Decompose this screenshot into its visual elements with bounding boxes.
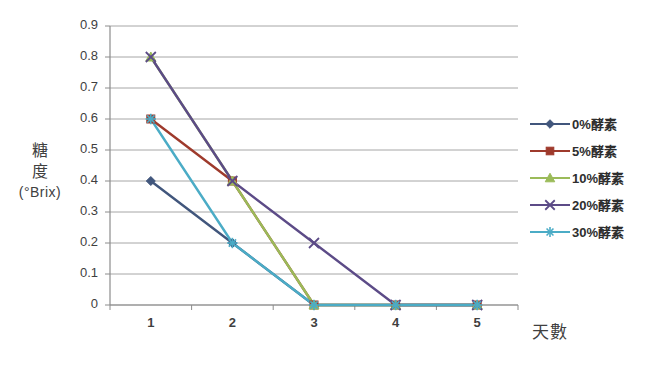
legend-marker-square-icon: [530, 144, 570, 158]
legend-item-label: 0%酵素: [570, 114, 617, 133]
legend-marker-glyph: [542, 143, 558, 159]
marker-diamond: [546, 119, 555, 128]
data-point-marker-asterisk: [390, 300, 400, 310]
legend-marker-glyph: [542, 170, 558, 186]
legend-marker-diamond-icon: [530, 117, 570, 131]
data-point-marker-square: [546, 147, 554, 155]
legend-item[interactable]: 10%酵素: [530, 164, 652, 191]
legend-marker-triangle-icon: [530, 171, 570, 185]
data-point-marker-asterisk: [472, 300, 482, 310]
data-point-marker-asterisk: [545, 227, 555, 237]
legend-item-label: 30%酵素: [570, 222, 624, 241]
legend-item-label: 5%酵素: [570, 141, 617, 160]
data-point-marker-asterisk: [146, 114, 156, 124]
chart-legend: 0%酵素5%酵素10%酵素20%酵素30%酵素: [530, 110, 652, 245]
legend-marker-asterisk-icon: [530, 225, 570, 239]
data-point-marker-triangle: [545, 173, 555, 182]
data-point-marker-asterisk: [309, 300, 319, 310]
legend-item[interactable]: 30%酵素: [530, 218, 652, 245]
legend-item[interactable]: 5%酵素: [530, 137, 652, 164]
marker-square: [546, 147, 554, 155]
legend-marker-glyph: [542, 224, 558, 240]
legend-item[interactable]: 20%酵素: [530, 191, 652, 218]
marker-triangle: [545, 173, 555, 182]
data-point-marker-diamond: [546, 119, 555, 128]
data-point-marker-x: [545, 200, 555, 210]
chart-container: 糖 度 (°Brix) 天數 0.90.80.70.60.50.40.30.20…: [0, 0, 653, 367]
legend-marker-glyph: [542, 116, 558, 132]
legend-marker-glyph: [542, 197, 558, 213]
legend-item-label: 20%酵素: [570, 195, 624, 214]
legend-marker-x-icon: [530, 198, 570, 212]
legend-item-label: 10%酵素: [570, 168, 624, 187]
legend-item[interactable]: 0%酵素: [530, 110, 652, 137]
